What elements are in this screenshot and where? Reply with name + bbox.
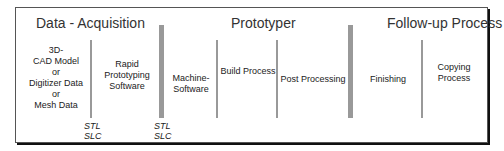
divider-line xyxy=(90,40,92,118)
step-rp-software: Rapid Prototyping Software xyxy=(96,59,158,92)
step-finishing: Finishing xyxy=(356,74,420,85)
section-divider-bar xyxy=(159,25,164,118)
section-title-data-acquisition: Data - Acquisition xyxy=(36,15,145,31)
section-title-prototyper: Prototyper xyxy=(231,15,296,31)
step-copying-process: Copying Process xyxy=(426,62,482,84)
format-label: STL SLC xyxy=(154,121,172,141)
divider-line xyxy=(216,40,218,118)
divider-line xyxy=(421,40,423,118)
format-label: STL SLC xyxy=(84,121,102,141)
step-build-process: Build Process xyxy=(219,66,277,77)
step-post-processing: Post Processing xyxy=(279,74,347,85)
step-data-source: 3D- CAD Model or Digitizer Data or Mesh … xyxy=(24,45,88,111)
section-title-follow-up-process: Follow-up Process xyxy=(387,15,502,31)
section-divider-bar xyxy=(348,25,353,118)
divider-line xyxy=(276,40,278,118)
step-machine-software: Machine- Software xyxy=(166,73,216,95)
